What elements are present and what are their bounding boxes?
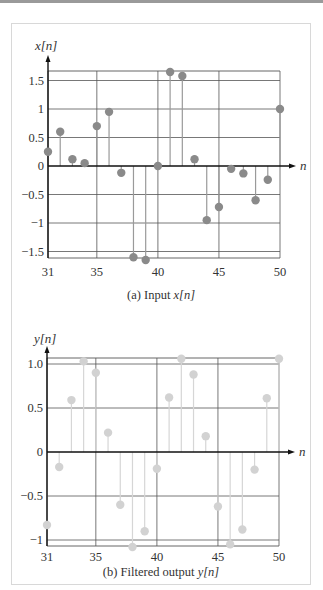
y-axis-arrow-icon xyxy=(45,346,50,353)
data-point xyxy=(129,253,137,261)
data-point xyxy=(153,465,161,473)
data-point xyxy=(251,196,259,204)
svg-text:−1.5: −1.5 xyxy=(21,245,44,259)
y-axis-label: x[n] xyxy=(34,38,57,53)
axes xyxy=(46,55,297,258)
svg-text:50: 50 xyxy=(274,265,287,279)
data-point xyxy=(93,122,101,130)
data-point xyxy=(166,68,174,76)
data-point xyxy=(264,175,272,183)
data-point xyxy=(215,203,223,211)
svg-text:1.0: 1.0 xyxy=(27,357,43,371)
data-point xyxy=(250,465,258,473)
svg-text:0.5: 0.5 xyxy=(27,401,43,415)
svg-text:1.5: 1.5 xyxy=(28,74,44,88)
y-tick-labels: −1−0.500.51.0 xyxy=(20,357,43,547)
data-point xyxy=(117,169,125,177)
svg-text:45: 45 xyxy=(213,265,226,279)
svg-text:−0.5: −0.5 xyxy=(21,188,44,202)
data-point xyxy=(190,155,198,163)
stem-chart-input: −1.5−1−0.500.511.53135404550x[n]n(a) Inp… xyxy=(21,38,306,302)
chart-caption: (b) Filtered output y[n] xyxy=(103,565,219,579)
chart-caption: (a) Input x[n] xyxy=(127,288,195,302)
data-point xyxy=(154,162,162,170)
svg-text:45: 45 xyxy=(212,550,225,564)
y-axis-arrow-icon xyxy=(46,55,51,62)
figure-svg: −1.5−1−0.500.511.53135404550x[n]n(a) Inp… xyxy=(0,0,323,590)
data-point xyxy=(226,540,234,548)
svg-text:40: 40 xyxy=(151,550,164,564)
data-point xyxy=(116,501,124,509)
data-point xyxy=(165,393,173,401)
x-axis-label: n xyxy=(299,444,306,459)
data-point xyxy=(239,169,247,177)
markers xyxy=(43,355,283,552)
svg-text:−1: −1 xyxy=(30,533,43,547)
svg-text:31: 31 xyxy=(41,550,54,564)
data-point xyxy=(43,521,51,529)
data-point xyxy=(92,369,100,377)
data-point xyxy=(55,463,63,471)
data-point xyxy=(203,216,211,224)
svg-text:0.5: 0.5 xyxy=(28,131,44,145)
svg-text:35: 35 xyxy=(90,550,103,564)
x-axis-label: n xyxy=(300,158,307,173)
y-tick-labels: −1.5−1−0.500.511.5 xyxy=(21,74,44,259)
x-tick-labels: 3135404550 xyxy=(42,265,287,279)
data-point xyxy=(128,543,136,551)
data-point xyxy=(276,105,284,113)
svg-text:40: 40 xyxy=(152,265,165,279)
x-axis-arrow-icon xyxy=(289,164,296,169)
data-point xyxy=(67,396,75,404)
stem-chart-output: −1−0.500.51.03135404550y[n]n(b) Filtered… xyxy=(20,331,305,579)
data-point xyxy=(214,502,222,510)
data-point xyxy=(141,256,149,264)
data-point xyxy=(263,394,271,402)
data-point xyxy=(44,148,52,156)
svg-text:0: 0 xyxy=(38,159,44,173)
data-point xyxy=(177,355,185,363)
data-point xyxy=(80,159,88,167)
data-point xyxy=(68,155,76,163)
svg-text:−1: −1 xyxy=(31,216,44,230)
svg-text:31: 31 xyxy=(42,265,55,279)
data-point xyxy=(104,428,112,436)
y-axis-label: y[n] xyxy=(32,331,56,346)
data-point xyxy=(189,370,197,378)
data-point xyxy=(227,165,235,173)
data-point xyxy=(140,527,148,535)
data-point xyxy=(56,128,64,136)
data-point xyxy=(178,72,186,80)
data-point xyxy=(238,525,246,533)
svg-text:1: 1 xyxy=(38,102,44,116)
svg-text:−0.5: −0.5 xyxy=(20,489,43,503)
svg-text:50: 50 xyxy=(273,550,286,564)
axes xyxy=(45,346,296,546)
svg-text:0: 0 xyxy=(37,445,43,459)
svg-text:35: 35 xyxy=(91,265,104,279)
x-tick-labels: 3135404550 xyxy=(41,550,286,564)
data-point xyxy=(202,432,210,440)
x-axis-arrow-icon xyxy=(288,450,295,455)
stems xyxy=(47,359,279,547)
data-point xyxy=(79,357,87,365)
data-point xyxy=(105,108,113,116)
data-point xyxy=(275,355,283,363)
